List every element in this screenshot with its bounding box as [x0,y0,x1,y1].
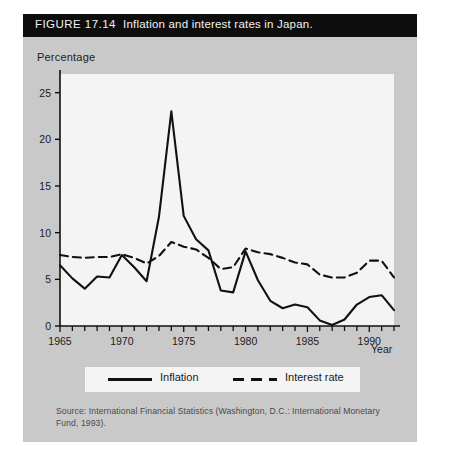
svg-text:1975: 1975 [172,335,196,347]
legend-label-inflation: Inflation [160,371,199,383]
figure-card: FIGURE 17.14 Inflation and interest rate… [23,14,417,442]
svg-text:10: 10 [39,227,51,239]
svg-text:0: 0 [45,320,51,332]
chart-plot: 0510152025196519701975198019851990 [23,43,417,353]
series-group [60,111,394,325]
svg-text:1980: 1980 [234,335,258,347]
svg-text:15: 15 [39,180,51,192]
solid-line-icon [108,378,152,381]
svg-text:5: 5 [45,273,51,285]
chart-body: Percentage 05101520251965197019751980198… [23,43,417,442]
svg-text:20: 20 [39,133,51,145]
svg-text:25: 25 [39,87,51,99]
svg-text:1970: 1970 [110,335,134,347]
source-note: Source: International Financial Statisti… [56,405,386,430]
svg-text:1985: 1985 [296,335,320,347]
series-line-interest-rate [60,242,394,277]
figure-number: FIGURE 17.14 [35,18,116,30]
svg-text:1965: 1965 [48,335,72,347]
x-axis-title: Year [371,343,392,355]
dashed-line-icon [233,378,277,381]
figure-caption: Inflation and interest rates in Japan. [123,18,313,30]
tick-labels-group: 0510152025196519701975198019851990 [39,87,381,347]
series-line-inflation [60,111,394,325]
axes-group [55,70,400,332]
figure-title-bar: FIGURE 17.14 Inflation and interest rate… [23,14,417,37]
chart-legend: Inflation Interest rate [85,367,360,392]
legend-label-interest-rate: Interest rate [285,371,344,383]
